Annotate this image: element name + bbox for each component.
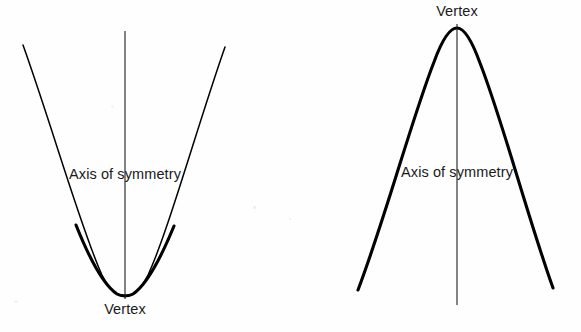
downward-parabola-curve: [358, 28, 553, 290]
right-axis-of-symmetry-label: Axis of symmetry: [401, 164, 513, 180]
right-vertex-label: Vertex: [436, 3, 478, 19]
left-parabola-group: [23, 31, 225, 299]
diagram-canvas: Axis of symmetry Vertex Vertex Axis of s…: [0, 0, 581, 332]
left-axis-of-symmetry-label: Axis of symmetry: [69, 166, 181, 182]
left-vertex-label: Vertex: [104, 301, 146, 317]
